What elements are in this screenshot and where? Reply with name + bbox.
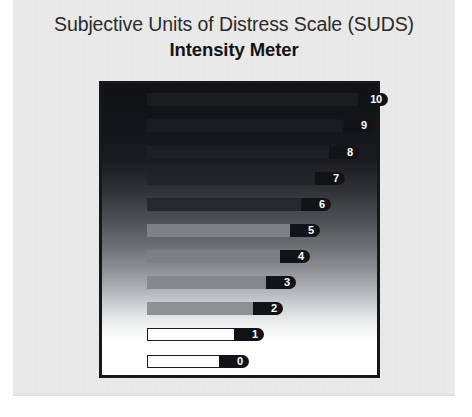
chart-subtitle: Intensity Meter — [13, 38, 455, 62]
suds-intensity-meter-figure: Subjective Units of Distress Scale (SUDS… — [0, 0, 472, 417]
intensity-gradient-fill — [102, 84, 377, 375]
chart-title: Subjective Units of Distress Scale (SUDS… — [13, 12, 455, 37]
title-block: Subjective Units of Distress Scale (SUDS… — [13, 12, 455, 62]
intensity-gradient-panel — [99, 81, 380, 378]
